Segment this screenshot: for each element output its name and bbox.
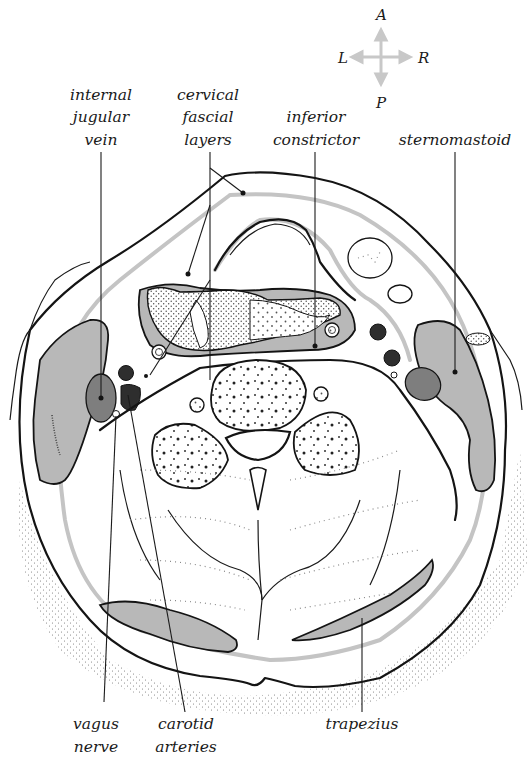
compass-arrows-icon <box>352 30 410 84</box>
label-vagus-nerve: vagus nerve <box>73 715 119 756</box>
spinous-process <box>250 468 266 511</box>
label-text: sternomastoid <box>399 131 511 149</box>
inferior-constrictor-muscle <box>139 284 355 359</box>
carotid-artery-left-external <box>121 384 140 410</box>
skin-shading <box>18 450 528 715</box>
label-text: nerve <box>74 738 119 756</box>
label-text: carotid <box>158 715 214 733</box>
label-text: layers <box>184 131 232 149</box>
vertebral-artery-left <box>190 398 204 412</box>
label-cervical-fascial-layers: cervical fascial layers <box>177 86 239 149</box>
vertebral-arch-right <box>294 412 359 475</box>
label-text: vagus <box>73 715 119 733</box>
compass-anterior: A <box>374 6 387 24</box>
neck-cross-section-diagram: A P L R <box>0 0 528 762</box>
vagus-nerve-right <box>391 372 397 378</box>
label-sternomastoid: sternomastoid <box>399 131 511 149</box>
carotid-artery-right-2 <box>384 350 400 366</box>
vertebral-body <box>211 360 306 431</box>
compass-left: L <box>337 49 348 67</box>
label-text: trapezius <box>325 715 398 733</box>
vertebral-artery-right <box>314 387 328 401</box>
carotid-artery-left-internal <box>119 366 134 381</box>
label-text: constrictor <box>273 131 361 149</box>
label-text: internal <box>70 86 132 104</box>
orientation-compass: A P L R <box>337 6 429 112</box>
cervical-vertebra <box>152 360 359 510</box>
label-inferior-constrictor: inferior constrictor <box>273 108 361 149</box>
label-trapezius: trapezius <box>325 715 398 733</box>
label-text: jugular <box>70 108 131 126</box>
label-internal-jugular-vein: internal jugular vein <box>70 86 132 149</box>
vertebral-arch-left <box>152 424 228 488</box>
label-text: vein <box>85 131 118 149</box>
compass-posterior: P <box>375 94 387 112</box>
spinal-canal <box>226 430 290 460</box>
label-text: cervical <box>177 86 239 104</box>
label-text: inferior <box>287 108 348 126</box>
label-text: arteries <box>155 738 217 756</box>
compass-right: R <box>417 49 429 67</box>
label-text: fascial <box>182 108 234 126</box>
label-carotid-arteries: carotid arteries <box>155 715 217 756</box>
carotid-artery-right-1 <box>370 324 386 340</box>
